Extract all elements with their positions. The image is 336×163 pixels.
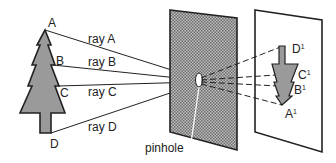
tree-object xyxy=(20,30,65,133)
pinhole-diagram: A B C D ray A ray B ray C ray D pinhole … xyxy=(0,0,336,163)
label-b: B xyxy=(56,54,64,68)
ray-c-label: ray C xyxy=(88,85,117,99)
ray-b-label: ray B xyxy=(88,55,116,69)
ray-d-label: ray D xyxy=(88,120,117,134)
label-d: D xyxy=(50,137,59,151)
label-a: A xyxy=(48,16,56,30)
ray-a-label: ray A xyxy=(88,32,115,46)
label-c: C xyxy=(60,86,69,100)
pinhole-label: pinhole xyxy=(145,141,184,155)
